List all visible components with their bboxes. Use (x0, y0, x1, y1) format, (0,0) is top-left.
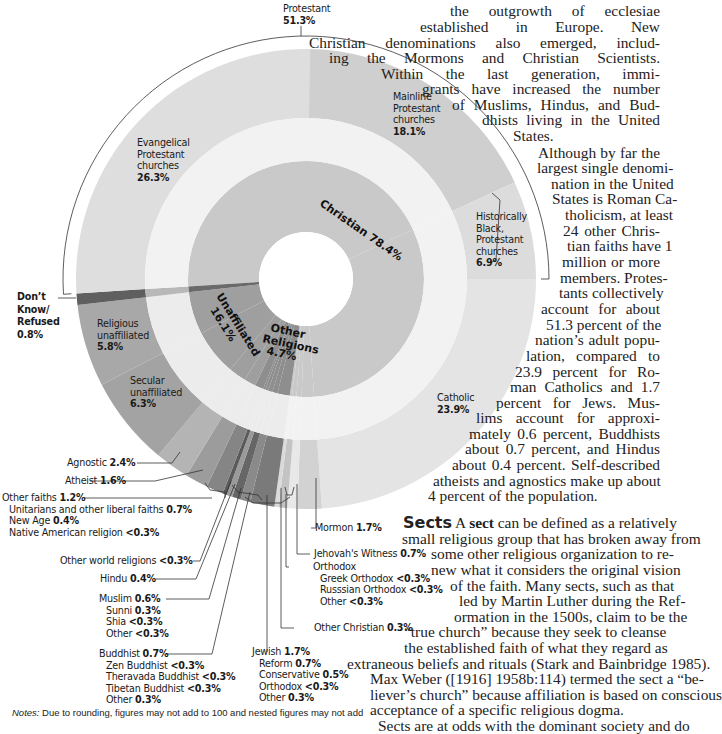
sub-pct: <0.3% (170, 660, 204, 671)
label-line: Protestant (476, 234, 527, 246)
sub-label: New Age (9, 515, 50, 526)
sub-pct: 0.3% (135, 605, 161, 616)
label-atheist: Atheist 1.6% (65, 475, 126, 487)
label-pct: 1.6% (100, 475, 126, 486)
label-pct: <0.3% (159, 555, 193, 566)
sub-pct: 0.7% (166, 504, 192, 515)
body-line: about 0.4 percent. Self-described (452, 457, 660, 473)
label-other-world-religions: Other world religions <0.3% (60, 555, 193, 567)
sub-label: Orthodox (259, 681, 302, 692)
sub-label: Other (106, 628, 132, 639)
sub-label: Native American religion (9, 527, 123, 538)
sub-pct: 0.3% (135, 694, 161, 705)
body-line: tants collectively (559, 285, 660, 301)
label-line: Historically (476, 211, 527, 223)
label-religious-unaffiliated: Religious unaffiliated 5.8% (97, 318, 149, 353)
body-line: dhists living in the United (482, 112, 660, 128)
body-line: ing the Mormons and Christian Scientists… (329, 50, 660, 66)
label-other-faiths: Other faiths 1.2% Unitarians and other l… (2, 492, 192, 538)
label-historically-black: Historically Black, Protestant churches … (476, 211, 527, 269)
body-line: 4 percent of the population. (428, 488, 660, 504)
label-agnostic: Agnostic 2.4% (67, 457, 135, 469)
label-pct: 51.3% (283, 15, 330, 27)
label-jehovahs-witness: Jehovah's Witness 0.7% (314, 548, 426, 560)
label-line: churches (393, 114, 440, 126)
label-muslim: Muslim 0.6% Sunni 0.3% Shia <0.3% Other … (99, 593, 169, 639)
sub-pct: <0.3% (135, 628, 169, 639)
sub-pct: 0.4% (53, 515, 79, 526)
sub-label: Other (320, 596, 346, 607)
body-line: lims account for approxi- (476, 410, 660, 426)
notes-text: Due to rounding, figures may not add to … (39, 707, 363, 718)
label-mormon: Mormon 1.7% (315, 522, 382, 534)
sub-pct: 0.7% (295, 658, 321, 669)
label-pct: 1.7% (284, 646, 310, 657)
label-hindu: Hindu 0.4% (100, 573, 156, 585)
body-line: largest single denomi- (537, 160, 660, 176)
label-pct: 6.3% (130, 398, 182, 410)
label-name: Muslim (99, 593, 132, 604)
label-pct: 1.7% (356, 522, 382, 533)
body-line: account for about (541, 301, 660, 317)
sects-line: led by Martin Luther during the Ref- (459, 593, 660, 609)
label-dont-know: Don’t Know/ Refused 0.8% (17, 291, 60, 341)
label-orthodox: Orthodox Greek Orthodox <0.3% Russsian O… (313, 561, 443, 607)
sub-label: Unitarians and other liberal faiths (9, 504, 163, 515)
label-line: Refused (17, 316, 60, 329)
label-name: Orthodox (313, 561, 443, 573)
sects-line: “true church” because they seek to clean… (404, 624, 660, 640)
sub-pct: <0.3% (202, 671, 236, 682)
label-name: Other Christian (314, 622, 384, 633)
sub-pct: <0.3% (349, 596, 383, 607)
sub-label: Zen Buddhist (106, 660, 168, 671)
sub-label: Reform (259, 658, 292, 669)
label-line: Don’t (17, 291, 60, 304)
label-line: Religious (97, 318, 149, 330)
label-name: Other world religions (60, 555, 156, 566)
body-line: about 0.7 percent, and Hindus (465, 441, 660, 457)
body-line: million or more (562, 254, 660, 270)
label-line: Protestant (393, 103, 440, 115)
label-pct: 6.9% (476, 257, 527, 269)
label-name: Protestant (283, 3, 330, 15)
label-pct: 18.1% (393, 126, 440, 138)
label-line: Black, (476, 223, 527, 235)
sub-label: Theravada Buddhist (106, 671, 199, 682)
label-pct: 2.4% (110, 457, 136, 468)
label-name: Atheist (65, 475, 97, 486)
body-line: established in Europe. New (420, 19, 660, 35)
sub-label: Greek Orthodox (320, 573, 393, 584)
label-name: Jehovah's Witness (314, 548, 397, 559)
label-line: Protestant (137, 149, 190, 161)
sub-label: Shia (106, 616, 126, 627)
label-line: unaffiliated (130, 387, 182, 399)
sub-label: Russsian Orthodox (320, 584, 406, 595)
label-name: Jewish (252, 646, 281, 657)
label-line: Evangelical (137, 137, 190, 149)
label-catholic: Catholic 23.9% (437, 392, 474, 415)
label-name: Catholic (437, 392, 474, 404)
label-protestant: Protestant 51.3% (283, 3, 330, 27)
label-name: Mormon (315, 522, 353, 533)
label-pct: 0.7% (143, 648, 169, 659)
body-line: tian faiths have 1 (567, 238, 660, 254)
sub-label: Other (106, 694, 132, 705)
label-buddhist: Buddhist 0.7% Zen Buddhist <0.3% Therava… (99, 648, 236, 706)
label-name: Other faiths (2, 492, 57, 503)
gap-segment (300, 397, 317, 440)
body-line: lation, compared to (526, 348, 660, 364)
label-name: Agnostic (67, 457, 107, 468)
label-pct: 0.6% (135, 593, 161, 604)
label-pct: 26.3% (137, 172, 190, 184)
label-name: Buddhist (99, 648, 140, 659)
sects-line: new what it considers the original visio… (431, 562, 660, 578)
sub-pct: <0.3% (126, 527, 160, 538)
sub-pct: <0.3% (409, 584, 443, 595)
sects-line: Max Weber ([1916] 1958b:114) termed the … (370, 671, 660, 687)
label-other-christian: Other Christian 0.3% (314, 622, 413, 634)
sub-label: Sunni (106, 605, 132, 616)
sub-pct: 0.5% (323, 669, 349, 680)
label-line: churches (476, 246, 527, 258)
chart-notes: Notes: Due to rounding, figures may not … (12, 707, 363, 718)
sub-pct: 0.3% (288, 692, 314, 703)
